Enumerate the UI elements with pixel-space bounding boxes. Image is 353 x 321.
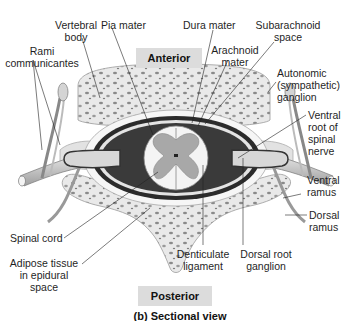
label-subarachnoid-space: Subarachnoidspace — [252, 19, 324, 43]
figure-caption: (b) Sectional view — [110, 310, 250, 321]
label-dorsal-ramus: Dorsalramus — [309, 209, 339, 233]
label-rami-communicantes: Ramicommunicantes — [3, 45, 81, 69]
posterior-tag: Posterior — [138, 286, 212, 306]
label-ventral-root: Ventralroot ofspinalnerve — [308, 109, 341, 157]
anterior-tag: Anterior — [136, 48, 202, 68]
label-pia-mater: Pia mater — [101, 19, 146, 31]
label-autonomic-ganglion: Autonomic(sympathetic)ganglion — [277, 67, 340, 103]
label-dorsal-root-ganglion: Dorsal rootganglion — [236, 248, 296, 272]
label-dura-mater: Dura mater — [183, 19, 236, 31]
label-denticulate-ligament: Denticulateligament — [172, 248, 234, 272]
label-vertebral-body: Vertebralbody — [46, 19, 106, 43]
label-arachnoid-mater: Arachnoidmater — [210, 44, 260, 68]
label-adipose-tissue: Adipose tissuein epiduralspace — [6, 257, 82, 293]
label-ventral-ramus: Ventralramus — [307, 174, 340, 198]
label-spinal-cord: Spinal cord — [10, 232, 63, 244]
spinal-cord-sectional-diagram: Anterior Posterior (b) Sectional view Ve… — [0, 0, 353, 321]
